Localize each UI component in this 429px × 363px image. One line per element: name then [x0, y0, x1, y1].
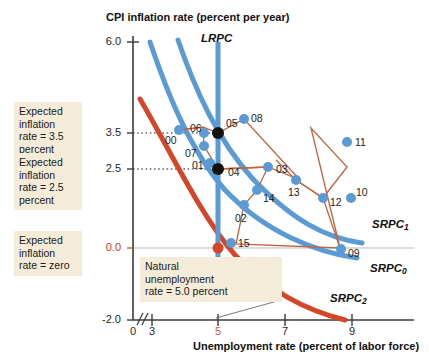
srpc1-base: SRPC — [372, 218, 404, 230]
point-label-03: 03 — [276, 163, 288, 175]
point-label-01: 01 — [192, 159, 204, 171]
point-label-06: 06 — [190, 122, 202, 134]
x-tick-label-9: 9 — [342, 325, 362, 337]
point-label-07: 07 — [185, 147, 197, 159]
data-point-10 — [346, 193, 356, 203]
data-point-15 — [226, 238, 236, 248]
srpc1-label: SRPC1 — [372, 218, 409, 232]
srpc2-label: SRPC2 — [330, 292, 367, 306]
x-tick-label-3: 3 — [142, 325, 162, 337]
x-tick-label-0: 0 — [123, 325, 143, 337]
natural-rate-leader — [216, 300, 281, 318]
srpc0-label: SRPC0 — [370, 262, 407, 276]
y-axis-title: CPI inflation rate (percent per year) — [106, 11, 289, 23]
data-point-09 — [336, 244, 346, 254]
point-label-12: 12 — [330, 196, 342, 208]
point-label-14: 14 — [263, 192, 275, 204]
x-tick-label-7: 7 — [275, 325, 295, 337]
y-tick-label-neg-2: -2.0 — [83, 313, 121, 325]
point-label-08: 08 — [251, 112, 263, 124]
point-label-00: 00 — [165, 134, 177, 146]
data-point-14 — [252, 185, 262, 195]
point-label-02: 02 — [235, 212, 247, 224]
data-point-13 — [291, 175, 301, 185]
srpc0-curve — [150, 42, 357, 258]
x-tick-label-5: 5 — [208, 325, 228, 337]
highlight-point-04 — [212, 163, 224, 175]
point-label-10: 10 — [356, 186, 368, 198]
data-point-03 — [263, 162, 273, 172]
point-label-05: 05 — [226, 117, 238, 129]
annotation-natural-unemployment-rate: Natural unemployment rate = 5.0 percent — [140, 257, 282, 302]
y-tick-label-2-5: 2.5 — [88, 162, 121, 174]
x-axis-title: Unemployment rate (percent of labor forc… — [193, 340, 419, 352]
y-tick-label-3-5: 3.5 — [88, 126, 121, 138]
highlight-point-05 — [212, 127, 224, 139]
point-label-09: 09 — [348, 247, 360, 259]
data-point-11 — [342, 137, 352, 147]
data-point-12 — [318, 193, 328, 203]
y-tick-label-6: 6.0 — [88, 35, 121, 47]
point-label-04: 04 — [228, 166, 240, 178]
axis-break-marks — [137, 313, 148, 325]
annotation-expected-inflation-zero: Expected inflation rate = zero — [14, 231, 82, 276]
annotation-expected-inflation-2-5: Expected inflation rate = 2.5 percent — [14, 153, 82, 210]
point-label-13: 13 — [288, 186, 300, 198]
highlight-point-natural-zero — [213, 243, 224, 254]
data-point-07 — [199, 141, 209, 151]
annotation-expected-inflation-3-5: Expected inflation rate = 3.5 percent — [14, 102, 82, 159]
y-tick-label-0: 0.0 — [88, 241, 121, 253]
srpc0-subscript: 0 — [402, 266, 407, 276]
data-point-08 — [239, 114, 249, 124]
lrpc-label: LRPC — [201, 32, 232, 44]
srpc2-subscript: 2 — [362, 296, 367, 306]
srpc2-base: SRPC — [330, 292, 362, 304]
chart-root: CPI inflation rate (percent per year) Un… — [0, 0, 429, 363]
srpc1-subscript: 1 — [404, 222, 409, 232]
point-label-15: 15 — [238, 237, 250, 249]
data-point-02 — [239, 200, 249, 210]
point-label-11: 11 — [355, 136, 366, 148]
srpc0-base: SRPC — [370, 262, 402, 274]
